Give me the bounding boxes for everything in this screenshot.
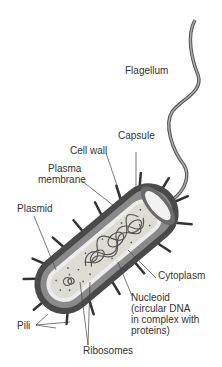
label-cell-wall: Cell wall (70, 145, 107, 156)
label-flagellum: Flagellum (125, 65, 168, 76)
label-plasma-membrane-line1: Plasma (48, 163, 81, 174)
label-plasmid: Plasmid (17, 203, 53, 214)
label-pili: Pili (17, 320, 30, 331)
label-ribosomes: Ribosomes (83, 345, 133, 356)
label-cytoplasm: Cytoplasm (158, 270, 205, 281)
label-plasma-membrane-line2: membrane (38, 174, 86, 185)
label-nucleoid-line1: Nucleoid (131, 292, 170, 303)
label-nucleoid-line3: in complex with (131, 314, 199, 325)
label-nucleoid-line2: (circular DNA (131, 303, 190, 314)
label-capsule: Capsule (118, 130, 155, 141)
label-nucleoid-line4: proteins) (131, 325, 170, 336)
